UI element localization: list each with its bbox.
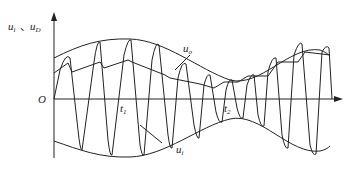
x-axis-arrow-icon — [334, 96, 343, 102]
y-label-ud: uD — [30, 20, 41, 34]
detector-output — [54, 52, 330, 88]
t2-label: t2 — [224, 102, 231, 116]
origin-label: O — [38, 93, 46, 105]
y-axis-arrow-icon — [51, 12, 57, 21]
uo-leader — [175, 55, 190, 70]
upper-envelope — [54, 39, 330, 81]
y-label-ui: ui — [8, 20, 16, 34]
t1-label: t1 — [120, 102, 127, 116]
uo-label: uo — [183, 42, 193, 56]
waveform-diagram: ui 、 uD O t1 t2 uo ui — [0, 0, 360, 177]
ui-label: ui — [176, 143, 184, 157]
ui-leader — [140, 125, 162, 143]
